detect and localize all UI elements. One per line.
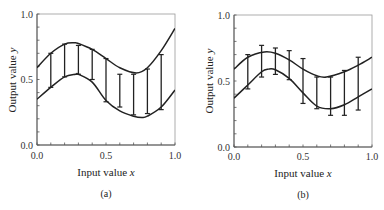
error-bar [62, 44, 67, 77]
y-axis-label: Output value y [6, 48, 18, 113]
error-bar [131, 74, 136, 115]
error-bar [287, 51, 292, 80]
x-tick-05: 0.5 [297, 151, 310, 162]
x-tick-1: 1.0 [366, 151, 379, 162]
error-bar [356, 57, 361, 110]
error-bar [145, 69, 150, 114]
figure: 1.0 0.5 0.0 0.0 0.5 1.0 Input value x Ou… [0, 0, 384, 210]
error-bar [301, 59, 306, 104]
x-tick-0: 0.0 [31, 150, 44, 161]
error-bar [328, 77, 333, 115]
plot-area-a [37, 14, 175, 145]
x-tick-1: 1.0 [169, 150, 182, 161]
plot-area-b [234, 15, 372, 147]
error-bar [90, 49, 95, 79]
error-bar [117, 74, 122, 107]
error-bar [342, 70, 347, 115]
y-tick-05: 0.5 [21, 74, 34, 85]
x-tick-05: 0.5 [100, 150, 113, 161]
panel-a: 1.0 0.5 0.0 0.0 0.5 1.0 Input value x Ou… [6, 9, 181, 200]
y-tick-1: 1.0 [21, 9, 34, 20]
panel-caption: (a) [100, 188, 111, 200]
x-axis-label: Input value x [77, 166, 135, 178]
x-axis-label: Input value x [274, 167, 332, 179]
error-bar [159, 55, 164, 110]
error-bar [48, 53, 53, 87]
x-tick-0: 0.0 [228, 151, 241, 162]
y-axis-label: Output value y [203, 49, 215, 114]
panel-b: 1.0 0.5 0.0 0.0 0.5 1.0 Input value x Ou… [203, 10, 378, 201]
y-tick-1: 1.0 [218, 10, 231, 21]
panel-caption: (b) [297, 189, 309, 201]
error-bar [104, 59, 109, 102]
y-tick-05: 0.5 [218, 76, 231, 87]
error-bar [76, 45, 81, 74]
